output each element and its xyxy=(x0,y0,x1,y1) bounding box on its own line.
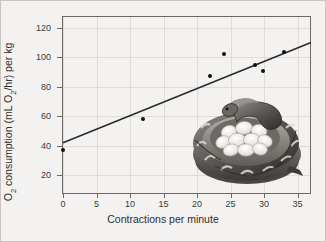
y-axis-label-sub-2: 2 xyxy=(9,91,18,95)
x-axis-line xyxy=(62,193,311,194)
y-axis-tick xyxy=(57,28,62,29)
y-axis-label-wrapper: O2 consumption (mL O2/hr) per kg xyxy=(0,1,23,242)
y-axis-label-text-3: /hr) per kg xyxy=(2,43,14,91)
x-axis-tick xyxy=(197,193,198,198)
y-axis-tick xyxy=(57,146,62,147)
data-point xyxy=(141,117,145,121)
x-axis-label: Contractions per minute xyxy=(1,213,325,225)
data-point xyxy=(282,50,286,54)
x-axis-tick-label: 20 xyxy=(192,199,202,209)
x-axis-tick-label: 15 xyxy=(159,199,169,209)
x-axis-tick-label: 25 xyxy=(226,199,236,209)
y-axis-label-sub-1: 2 xyxy=(9,189,18,193)
data-point xyxy=(253,63,257,67)
x-axis-tick-label: 30 xyxy=(259,199,269,209)
x-axis-tick xyxy=(264,193,265,198)
y-axis-tick-label: 120 xyxy=(36,23,51,33)
x-axis-tick xyxy=(298,193,299,198)
x-axis-tick-label: 10 xyxy=(125,199,135,209)
python-coiled-around-eggs-icon xyxy=(185,88,307,188)
x-axis-tick xyxy=(231,193,232,198)
data-point xyxy=(222,52,226,56)
x-axis-tick xyxy=(63,193,64,198)
x-axis-tick-label: 0 xyxy=(60,199,65,209)
data-point xyxy=(208,74,212,78)
x-axis-tick xyxy=(97,193,98,198)
y-axis-tick xyxy=(57,57,62,58)
x-axis-tick-label: 35 xyxy=(293,199,303,209)
y-axis-label-text-1: O xyxy=(2,193,14,201)
data-point xyxy=(61,148,65,152)
y-axis-tick xyxy=(57,116,62,117)
y-axis-tick-label: 20 xyxy=(41,170,51,180)
y-axis-tick xyxy=(57,87,62,88)
figure-container: O2 consumption (mL O2/hr) per kg 0510152… xyxy=(0,0,326,242)
y-axis-tick-label: 100 xyxy=(36,52,51,62)
y-axis-tick-label: 80 xyxy=(41,82,51,92)
y-axis-tick-label: 40 xyxy=(41,141,51,151)
y-axis-label: O2 consumption (mL O2/hr) per kg xyxy=(2,43,17,202)
y-axis-tick-label: 60 xyxy=(41,111,51,121)
y-axis-label-text-2: consumption (mL O xyxy=(2,95,14,189)
data-point xyxy=(261,69,265,73)
x-axis-tick-label: 5 xyxy=(94,199,99,209)
x-axis-tick xyxy=(164,193,165,198)
y-axis-tick xyxy=(57,175,62,176)
plot-area xyxy=(63,16,311,193)
x-axis-tick xyxy=(130,193,131,198)
